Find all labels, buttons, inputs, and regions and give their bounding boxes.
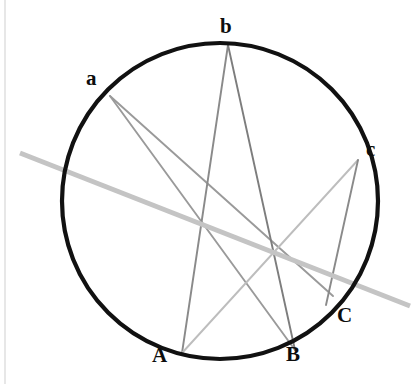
point-label-C-upper: C <box>337 305 352 326</box>
diagram-canvas <box>0 0 416 384</box>
point-label-b: b <box>220 16 232 37</box>
point-label-a: a <box>86 68 97 89</box>
point-label-c: c <box>366 139 375 160</box>
point-label-B-upper: B <box>286 344 300 365</box>
geometry-figure: a b c A B C <box>0 0 416 384</box>
chord-b-to-A <box>182 45 228 353</box>
chord-c-to-A <box>182 160 358 353</box>
point-label-A-upper: A <box>152 345 167 366</box>
pascal-line <box>20 153 410 306</box>
chord-group <box>110 45 358 353</box>
chord-a-to-C <box>110 96 333 296</box>
